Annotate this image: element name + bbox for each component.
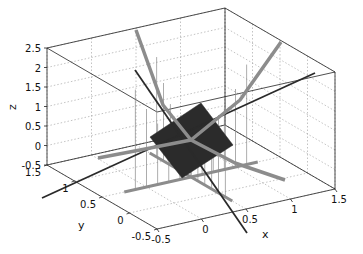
parabola-curve	[98, 42, 281, 158]
x-tick-label: 1.5	[331, 194, 347, 205]
grid-line	[225, 28, 335, 92]
y-tick-label: 0	[117, 215, 123, 226]
x-tick-label: 1	[291, 204, 297, 215]
z-tick-label: 0	[35, 141, 41, 152]
x-tick-label: 0.5	[242, 214, 258, 225]
z-tick-label: -0.5	[21, 160, 41, 171]
z-tick-label: 1.5	[25, 82, 41, 93]
grid-line	[225, 106, 335, 170]
x-tick-label: -0.5	[151, 234, 171, 245]
y-axis-label: y	[78, 219, 85, 232]
y-tick	[99, 197, 102, 198]
z-tick-label: 1	[35, 102, 41, 113]
3d-plot: -0.500.511.5-0.500.511.5-0.500.511.522.5…	[0, 0, 363, 254]
grid-line	[225, 47, 335, 111]
tangent-line	[135, 70, 247, 233]
x-tick-label: 0	[202, 224, 208, 235]
y-tick	[127, 213, 130, 214]
y-tick-label: 1	[62, 183, 68, 194]
x-tick	[291, 199, 293, 202]
z-axis-label: z	[6, 104, 19, 110]
z-tick-label: 2.5	[25, 43, 41, 54]
z-tick-label: 0.5	[25, 121, 41, 132]
z-tick-label: 2	[35, 63, 41, 74]
x-axis-label: x	[262, 228, 269, 241]
y-tick	[154, 229, 157, 230]
box-edge	[47, 48, 157, 112]
y-tick-label: -0.5	[131, 231, 151, 242]
x-tick	[246, 209, 248, 212]
y-tick-label: 0.5	[80, 199, 96, 210]
x-tick	[335, 189, 337, 192]
x-tick	[202, 219, 204, 222]
y-tick	[72, 181, 75, 182]
x-tick	[157, 229, 159, 232]
